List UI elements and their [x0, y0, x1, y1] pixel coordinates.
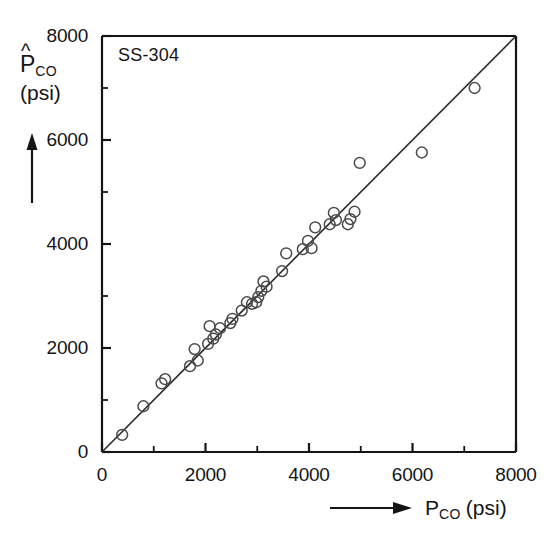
scatter-data-points	[117, 83, 480, 441]
series-annotation-label: SS-304	[118, 45, 179, 66]
x-axis-subscript: CO	[439, 506, 461, 522]
x-tick-label: 6000	[392, 464, 433, 486]
data-point	[189, 344, 200, 355]
x-tick-label: 4000	[288, 464, 329, 486]
data-point	[310, 222, 321, 233]
data-point	[227, 313, 238, 324]
y-axis-unit: (psi)	[20, 82, 61, 104]
data-point	[469, 83, 480, 94]
data-point	[416, 147, 427, 158]
data-point	[328, 207, 339, 218]
data-point	[185, 361, 196, 372]
x-axis-title: PCO(psi)	[425, 496, 507, 522]
y-tick-label: 8000	[0, 25, 88, 47]
y-tick-label: 0	[0, 441, 88, 463]
y-tick-label: 2000	[0, 337, 88, 359]
y-axis-title: P^CO (psi)	[20, 52, 61, 104]
scatter-plot-figure: SS-304 P^CO (psi) PCO(psi) 0200040006000…	[0, 0, 557, 542]
x-tick-label: 0	[97, 464, 107, 486]
x-axis-direction-arrow	[330, 502, 412, 514]
data-point	[281, 248, 292, 259]
y-tick-label: 4000	[0, 233, 88, 255]
data-point	[354, 157, 365, 168]
y-axis-subscript: CO	[35, 63, 57, 79]
x-axis-symbol: P	[425, 496, 439, 519]
x-axis-unit: (psi)	[466, 496, 507, 519]
x-tick-label: 8000	[495, 464, 536, 486]
y-tick-label: 6000	[0, 129, 88, 151]
x-tick-label: 2000	[185, 464, 226, 486]
